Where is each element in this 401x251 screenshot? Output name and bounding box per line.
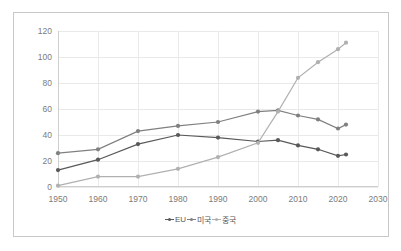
y-tick-label: 120 (38, 26, 52, 36)
y-tick-label: 20 (43, 156, 52, 166)
legend-item[interactable]: 중국 (212, 214, 237, 225)
data-point-marker (176, 133, 180, 137)
data-point-marker (136, 129, 140, 133)
y-tick-label: 0 (47, 182, 52, 192)
data-point-marker (296, 143, 300, 147)
gridline-y (58, 187, 378, 188)
gridline-x (378, 31, 379, 187)
data-point-marker (344, 41, 348, 45)
data-point-marker (256, 110, 260, 114)
data-point-marker (336, 126, 340, 130)
data-point-marker (276, 110, 280, 114)
legend-label: EU (175, 215, 187, 224)
data-point-marker (96, 147, 100, 151)
data-point-marker (176, 167, 180, 171)
data-point-marker (136, 175, 140, 179)
x-tick-label: 1950 (49, 194, 68, 204)
y-tick-label: 80 (43, 78, 52, 88)
x-tick-label: 1990 (209, 194, 228, 204)
data-point-marker (344, 152, 348, 156)
series-line (58, 43, 346, 186)
data-point-marker (276, 138, 280, 142)
data-point-marker (256, 141, 260, 145)
data-point-marker (136, 142, 140, 146)
chart-legend: EU미국중국 (14, 214, 388, 225)
legend-label: 중국 (222, 214, 237, 225)
y-tick-label: 40 (43, 130, 52, 140)
x-tick-label: 2030 (369, 194, 388, 204)
y-tick-label: 60 (43, 104, 52, 114)
data-point-marker (316, 60, 320, 64)
series-line (58, 135, 346, 170)
data-point-marker (216, 120, 220, 124)
chart-frame: 020406080100120 195019601970198019902000… (13, 12, 389, 237)
data-point-marker (296, 113, 300, 117)
legend-label: 미국 (197, 214, 212, 225)
x-tick-label: 2010 (289, 194, 308, 204)
data-point-marker (96, 175, 100, 179)
x-tick-label: 1960 (89, 194, 108, 204)
data-point-marker (176, 124, 180, 128)
data-point-marker (296, 76, 300, 80)
data-point-marker (316, 117, 320, 121)
x-tick-label: 1970 (129, 194, 148, 204)
data-point-marker (56, 168, 60, 172)
plot-area: 020406080100120 195019601970198019902000… (58, 31, 378, 187)
data-point-marker (216, 136, 220, 140)
data-point-marker (316, 147, 320, 151)
data-point-marker (216, 155, 220, 159)
diamond-marker (165, 215, 174, 224)
data-point-marker (344, 123, 348, 127)
data-point-marker (336, 47, 340, 51)
legend-item[interactable]: 미국 (187, 214, 212, 225)
diamond-marker (187, 215, 196, 224)
diamond-marker (212, 215, 221, 224)
legend-item[interactable]: EU (165, 215, 187, 224)
data-point-marker (56, 184, 60, 188)
data-point-marker (336, 154, 340, 158)
y-tick-label: 100 (38, 52, 52, 62)
x-tick-label: 2020 (329, 194, 348, 204)
data-point-marker (96, 158, 100, 162)
data-point-marker (56, 151, 60, 155)
x-tick-label: 2000 (249, 194, 268, 204)
x-tick-label: 1980 (169, 194, 188, 204)
series-lines-and-markers (58, 31, 378, 187)
